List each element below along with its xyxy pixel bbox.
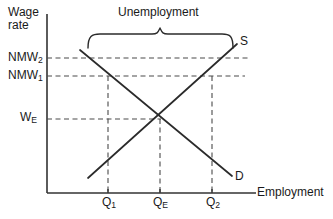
x-tick-label-q2: Q2 [206, 196, 220, 209]
x-axis-title: Employment [257, 186, 324, 199]
qe-text: Q [153, 195, 162, 209]
nmw2-text: NMW [8, 50, 38, 64]
nmw1-text: NMW [8, 68, 38, 82]
y-axis-title-line2: rate [8, 19, 39, 32]
q2-subscript: 2 [215, 200, 220, 210]
nmw2-subscript: 2 [38, 55, 43, 65]
qe-subscript: E [162, 200, 168, 210]
demand-curve-label: D [235, 170, 244, 183]
supply-curve-label: S [240, 35, 248, 48]
q1-text: Q [102, 195, 111, 209]
y-axis-title: Wage rate [8, 6, 39, 33]
q2-text: Q [206, 195, 215, 209]
y-tick-label-nmw1: NMW1 [8, 69, 43, 82]
wage-employment-diagram: Wage rate Employment NMW2 NMW1 WE Q1 QE … [0, 0, 333, 219]
x-tick-label-qe: QE [153, 196, 168, 209]
we-text: W [20, 110, 31, 124]
y-tick-label-nmw2: NMW2 [8, 51, 43, 64]
unemployment-brace-icon [88, 28, 233, 48]
y-tick-label-we: WE [20, 111, 37, 124]
nmw1-subscript: 1 [38, 73, 43, 83]
x-tick-label-q1: Q1 [102, 196, 116, 209]
we-subscript: E [31, 115, 37, 125]
unemployment-label: Unemployment [118, 6, 199, 19]
q1-subscript: 1 [111, 200, 116, 210]
supply-curve [88, 44, 237, 178]
y-axis-title-line1: Wage [8, 6, 39, 19]
